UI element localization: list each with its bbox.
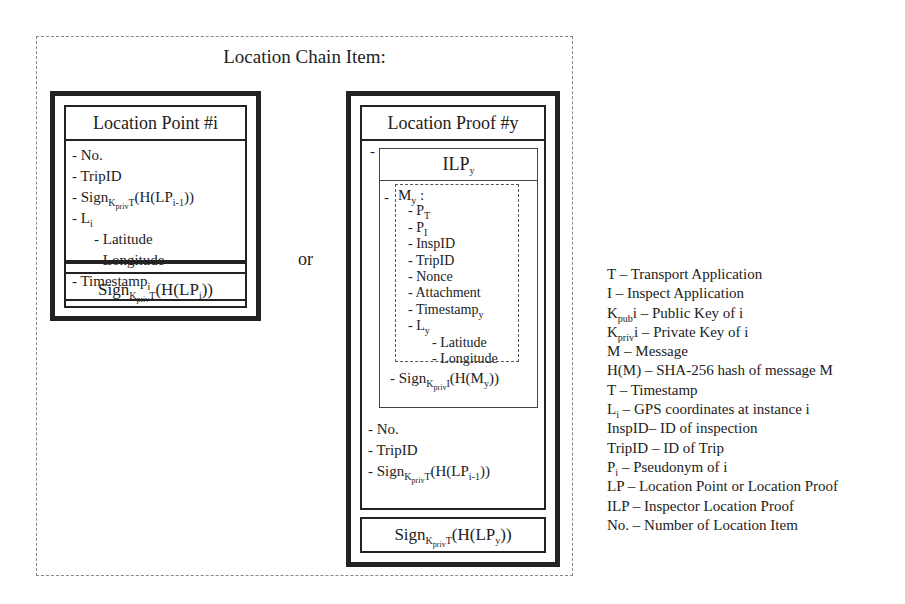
- location-point-outer-box: Location Point #i - No.- TripID- SignKpr…: [50, 91, 261, 321]
- location-proof-field: - TripID: [368, 440, 490, 461]
- ilp-signature: - SignKprivI(H(My)): [390, 368, 499, 389]
- message-field: - Nonce: [398, 269, 518, 285]
- location-proof-field: - SignKprivT(H(LPi-1)): [368, 461, 490, 482]
- message-field: - Attachment: [398, 285, 518, 301]
- location-point-field: - SignKprivT(H(LPi-1)): [72, 187, 245, 208]
- diagram-title: Location Chain Item:: [0, 46, 609, 68]
- legend-entry: LP – Location Point or Location Proof: [607, 477, 838, 496]
- message-field: - Ly: [398, 318, 518, 334]
- location-point-header: Location Point #i: [66, 107, 245, 141]
- legend-entry: Pi – Pseudonym of i: [607, 458, 838, 477]
- location-point-field: - TripID: [72, 166, 245, 187]
- location-proof-header: Location Proof #y: [362, 107, 544, 141]
- message-field: - Timestampy: [398, 302, 518, 318]
- message-field: - Longitude: [398, 351, 518, 367]
- location-point-signature: SignKprivT(H(LPi)): [64, 272, 247, 308]
- location-proof-outer-box: Location Proof #y - ILPy - My :- PT- PI-…: [346, 91, 560, 567]
- message-field: - TripID: [398, 253, 518, 269]
- legend-entry: M – Message: [607, 342, 838, 361]
- message-field: - Latitude: [398, 335, 518, 351]
- location-proof-field: - No.: [368, 419, 490, 440]
- legend: T – Transport ApplicationI – Inspect App…: [607, 265, 838, 535]
- ilp-box: ILPy - My :- PT- PI- InspID- TripID- Non…: [379, 148, 538, 408]
- location-point-field: - Latitude: [72, 229, 245, 250]
- message-box: My :- PT- PI- InspID- TripID- Nonce- Att…: [395, 184, 519, 362]
- message-field: - InspID: [398, 236, 518, 252]
- legend-entry: I – Inspect Application: [607, 284, 838, 303]
- ilp-dash: -: [370, 141, 375, 162]
- legend-entry: ILP – Inspector Location Proof: [607, 497, 838, 516]
- legend-entry: T – Transport Application: [607, 265, 838, 284]
- legend-entry: T – Timestamp: [607, 381, 838, 400]
- message-field: - PI: [398, 220, 518, 236]
- location-point-field: - Li: [72, 208, 245, 229]
- legend-entry: TripID – ID of Trip: [607, 439, 838, 458]
- legend-entry: Kprivi – Private Key of i: [607, 323, 838, 342]
- legend-entry: InspID– ID of inspection: [607, 419, 838, 438]
- or-separator: or: [298, 249, 313, 270]
- location-proof-fields: - No.- TripID- SignKprivT(H(LPi-1)): [368, 419, 490, 482]
- message-label: My :: [398, 187, 518, 203]
- legend-entry: H(M) – SHA-256 hash of message M: [607, 361, 838, 380]
- location-proof-box: Location Proof #y - ILPy - My :- PT- PI-…: [360, 105, 546, 510]
- location-proof-signature: SignKprivT(H(LPy)): [360, 517, 546, 553]
- legend-entry: Kpubi – Public Key of i: [607, 304, 838, 323]
- location-point-field: - No.: [72, 145, 245, 166]
- legend-entry: No. – Number of Location Item: [607, 516, 838, 535]
- location-point-fields: - No.- TripID- SignKprivT(H(LPi-1))- Li-…: [66, 141, 245, 292]
- legend-entry: Li – GPS coordinates at instance i: [607, 400, 838, 419]
- ilp-header: ILPy: [380, 149, 537, 181]
- message-field: - PT: [398, 203, 518, 219]
